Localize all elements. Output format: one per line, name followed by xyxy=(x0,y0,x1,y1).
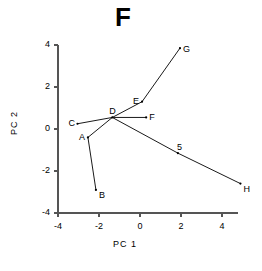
data-point-label-b: B xyxy=(99,191,105,200)
x-tick-label: 4 xyxy=(202,221,242,231)
data-point-label-a: A xyxy=(79,133,85,142)
data-point-marker xyxy=(87,136,89,138)
edge-line xyxy=(77,117,112,123)
data-point-marker xyxy=(179,47,181,49)
data-point-label-e: E xyxy=(133,97,139,106)
y-tick-label: -2 xyxy=(12,165,50,175)
data-point-label-h: H xyxy=(243,185,250,194)
data-point-marker xyxy=(141,101,143,103)
data-point-label-f: F xyxy=(149,113,155,122)
data-point-marker xyxy=(239,183,241,185)
data-point-marker xyxy=(111,116,113,118)
y-tick-label: 4 xyxy=(12,39,50,49)
data-point-marker xyxy=(145,116,147,118)
edge-lines-group xyxy=(77,48,240,190)
x-tick-label: -2 xyxy=(79,221,119,231)
axes-group xyxy=(54,45,238,217)
edge-line xyxy=(142,48,180,102)
y-tick-label: 2 xyxy=(12,81,50,91)
x-tick-label: 2 xyxy=(161,221,201,231)
chart-canvas: F ABCDEFGH5 -4-2024-4-2024 PC 1 PC 2 xyxy=(0,0,262,271)
y-tick-label: -4 xyxy=(12,207,50,217)
data-point-marker xyxy=(95,189,97,191)
data-point-label-g: G xyxy=(183,45,190,54)
edge-line xyxy=(112,117,178,153)
x-tick-label: -4 xyxy=(38,221,78,231)
x-axis-title: PC 1 xyxy=(0,239,256,249)
edge-line xyxy=(88,117,112,137)
y-axis-title: PC 2 xyxy=(9,93,19,153)
x-tick-label: 0 xyxy=(120,221,160,231)
data-point-marker xyxy=(177,152,179,154)
data-point-label-c: C xyxy=(68,119,75,128)
edge-line xyxy=(88,137,96,190)
data-point-label-5: 5 xyxy=(177,143,182,152)
data-point-label-d: D xyxy=(109,107,116,116)
data-point-marker xyxy=(76,123,78,125)
edge-line xyxy=(178,153,241,183)
